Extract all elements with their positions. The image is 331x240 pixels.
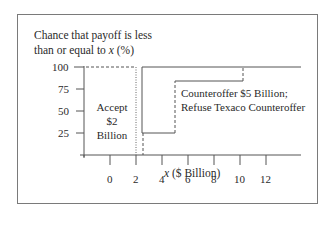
- y-tick-label-100: 100: [52, 60, 69, 74]
- accept-annotation-line-2: $2 Billion: [90, 114, 134, 142]
- counter-series-step-1: [142, 67, 175, 133]
- x-tick-label-10: 10: [234, 172, 245, 186]
- accept-annotation-line-1: Accept: [90, 100, 134, 114]
- x-tick-label-0: 0: [107, 172, 113, 186]
- x-tick-label-12: 12: [260, 172, 271, 186]
- counteroffer-annotation-line-2: Refuse Texaco Counteroffer: [181, 100, 305, 114]
- counteroffer-annotation-line-1: Counteroffer $5 Billion;: [181, 86, 305, 100]
- x-tick-label-2: 2: [133, 172, 139, 186]
- y-tick-label-25: 25: [58, 126, 69, 140]
- x-axis-unit: ($ Billion): [169, 167, 220, 179]
- counteroffer-annotation: Counteroffer $5 Billion; Refuse Texaco C…: [181, 86, 305, 114]
- accept-annotation: Accept $2 Billion: [90, 100, 134, 142]
- x-ticks: [84, 155, 266, 165]
- y-ticks: [74, 67, 84, 133]
- x-axis-label: x ($ Billion): [164, 167, 220, 179]
- y-tick-label-75: 75: [58, 82, 69, 96]
- y-tick-label-50: 50: [58, 104, 69, 118]
